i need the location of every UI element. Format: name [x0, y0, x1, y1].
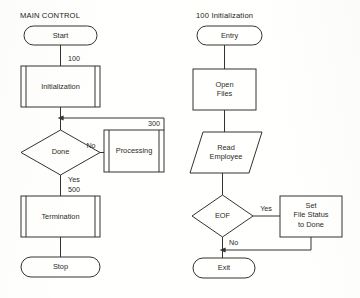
node-processing-label: Processing: [116, 146, 153, 155]
node-stop[interactable]: Stop: [21, 257, 100, 277]
edge-label-initialization-ref: 100: [68, 54, 80, 63]
node-eof[interactable]: EOF: [192, 195, 253, 237]
node-start[interactable]: Start: [24, 26, 97, 45]
node-open-files-label-line2: Files: [217, 89, 233, 98]
edge-label-processing-ref: 300: [148, 119, 160, 128]
node-start-label: Start: [53, 31, 69, 40]
node-stop-label: Stop: [53, 262, 68, 271]
right-panel-title: 100 Initialization: [196, 11, 253, 20]
node-processing[interactable]: Processing: [104, 130, 164, 172]
edge-label-done-no: No: [86, 141, 95, 150]
node-entry-label: Entry: [221, 31, 239, 40]
flowchart-canvas: MAIN CONTROL Start 100 Initialization Do…: [0, 0, 360, 298]
node-set-file-status-label-line1: Set: [305, 201, 316, 210]
node-read-employee-label-line2: Employee: [210, 152, 243, 161]
node-termination[interactable]: Termination: [21, 196, 100, 237]
edge-label-eof-no: No: [229, 238, 238, 247]
node-exit-label: Exit: [218, 263, 230, 272]
node-read-employee[interactable]: Read Employee: [190, 132, 262, 173]
node-entry[interactable]: Entry: [197, 26, 262, 45]
edge-label-done-yes: Yes: [68, 175, 80, 184]
left-panel-title: MAIN CONTROL: [20, 11, 80, 20]
node-eof-label: EOF: [215, 211, 231, 220]
node-set-file-status-label-line2: File Status: [294, 210, 329, 219]
flowchart-page: MAIN CONTROL Start 100 Initialization Do…: [0, 0, 360, 298]
node-done-label: Done: [52, 147, 70, 156]
edge-label-eof-yes: Yes: [260, 204, 272, 213]
node-initialization-label: Initialization: [41, 82, 80, 91]
node-termination-label: Termination: [41, 212, 79, 221]
node-done[interactable]: Done: [21, 130, 100, 175]
node-read-employee-label-line1: Read: [217, 143, 235, 152]
node-set-file-status[interactable]: Set File Status to Done: [280, 196, 342, 237]
node-exit[interactable]: Exit: [193, 258, 255, 278]
node-open-files-label-line1: Open: [215, 80, 233, 89]
node-open-files[interactable]: Open Files: [193, 69, 256, 110]
node-set-file-status-label-line3: to Done: [298, 220, 324, 229]
node-initialization[interactable]: Initialization: [21, 66, 100, 107]
edge-label-termination-ref: 500: [68, 185, 80, 194]
